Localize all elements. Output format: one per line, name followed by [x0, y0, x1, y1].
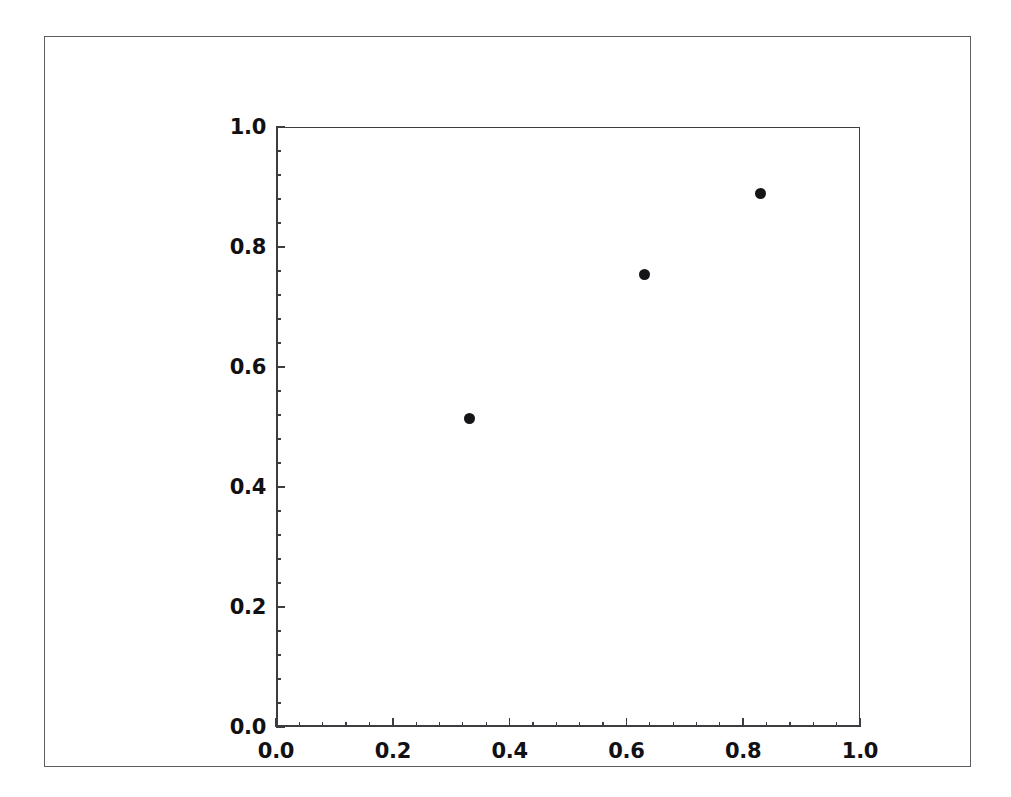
y-tick-minor: [276, 630, 281, 631]
x-tick-minor: [649, 722, 650, 727]
y-tick-minor: [276, 294, 281, 295]
y-tick-minor: [276, 438, 281, 439]
y-tick-minor: [276, 534, 281, 535]
y-tick-minor: [276, 654, 281, 655]
x-tick-minor: [579, 722, 580, 727]
y-tick-label: 1.0: [230, 115, 266, 139]
y-tick-major: [276, 366, 285, 368]
x-tick-label: 0.8: [725, 739, 761, 763]
x-tick-minor: [673, 722, 674, 727]
y-tick-label: 0.2: [230, 595, 266, 619]
scatter-point: [639, 269, 650, 280]
x-tick-minor: [556, 722, 557, 727]
y-tick-label: 0.4: [230, 475, 266, 499]
plot-area: 0.00.20.40.60.81.0 0.00.20.40.60.81.0: [276, 127, 860, 727]
x-tick-minor: [766, 722, 767, 727]
x-tick-minor: [813, 722, 814, 727]
x-tick-minor: [532, 722, 533, 727]
axis-spine-left: [276, 127, 278, 727]
x-tick-minor: [836, 722, 837, 727]
x-tick-label: 1.0: [842, 739, 878, 763]
x-tick-major: [859, 718, 861, 727]
x-tick-label: 0.2: [375, 739, 411, 763]
y-tick-minor: [276, 174, 281, 175]
x-tick-minor: [486, 722, 487, 727]
y-tick-minor: [276, 270, 281, 271]
y-tick-minor: [276, 198, 281, 199]
x-tick-minor: [696, 722, 697, 727]
x-tick-minor: [299, 722, 300, 727]
y-tick-major: [276, 606, 285, 608]
y-tick-minor: [276, 318, 281, 319]
x-tick-minor: [789, 722, 790, 727]
scatter-point: [755, 188, 766, 199]
y-tick-minor: [276, 582, 281, 583]
axis-spine-top: [276, 127, 860, 128]
x-tick-major: [626, 718, 628, 727]
x-tick-major: [509, 718, 511, 727]
x-tick-minor: [345, 722, 346, 727]
x-tick-label: 0.6: [608, 739, 644, 763]
x-tick-minor: [462, 722, 463, 727]
y-tick-major: [276, 246, 285, 248]
y-tick-major: [276, 726, 285, 728]
y-tick-minor: [276, 678, 281, 679]
y-tick-minor: [276, 462, 281, 463]
x-tick-major: [392, 718, 394, 727]
y-tick-minor: [276, 702, 281, 703]
y-tick-label: 0.8: [230, 235, 266, 259]
y-tick-label: 0.6: [230, 355, 266, 379]
x-tick-minor: [369, 722, 370, 727]
x-tick-minor: [322, 722, 323, 727]
y-tick-minor: [276, 150, 281, 151]
x-tick-major: [742, 718, 744, 727]
x-tick-major: [275, 718, 277, 727]
x-tick-label: 0.4: [491, 739, 527, 763]
x-tick-minor: [719, 722, 720, 727]
y-tick-label: 0.0: [230, 715, 266, 739]
figure-frame: 0.00.20.40.60.81.0 0.00.20.40.60.81.0: [44, 36, 971, 767]
x-tick-minor: [439, 722, 440, 727]
y-tick-minor: [276, 558, 281, 559]
x-tick-minor: [416, 722, 417, 727]
y-tick-minor: [276, 222, 281, 223]
axis-spine-bottom: [276, 725, 860, 727]
y-tick-minor: [276, 510, 281, 511]
y-tick-major: [276, 126, 285, 128]
y-tick-minor: [276, 390, 281, 391]
y-tick-minor: [276, 342, 281, 343]
scatter-point: [464, 413, 475, 424]
axis-spine-right: [859, 127, 860, 727]
y-tick-minor: [276, 414, 281, 415]
x-tick-minor: [602, 722, 603, 727]
y-tick-major: [276, 486, 285, 488]
x-tick-label: 0.0: [258, 739, 294, 763]
